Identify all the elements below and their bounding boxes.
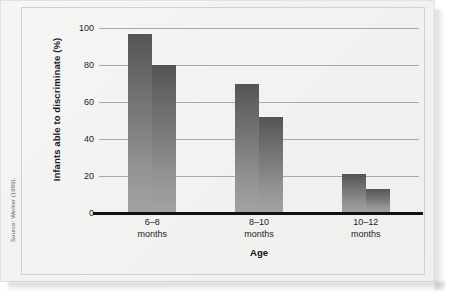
x-category-label: 6–8months	[99, 217, 206, 240]
plot-area: 020406080100	[99, 28, 419, 213]
x-axis-title: Age	[99, 247, 419, 258]
gridline	[99, 28, 419, 29]
x-category-range: 10–12	[312, 217, 419, 229]
figure-shadow-right	[435, 9, 444, 290]
y-tick-label: 60	[84, 97, 94, 107]
figure-shadow-bottom	[8, 282, 445, 291]
bar-chart: Infants able to discriminate (%) 0204060…	[1, 1, 436, 283]
x-category-label: 10–12months	[312, 217, 419, 240]
bar	[342, 174, 366, 213]
bar	[366, 189, 390, 213]
y-tick-label: 80	[84, 60, 94, 70]
x-category-range: 6–8	[99, 217, 206, 229]
x-axis-line	[93, 212, 423, 215]
x-category-unit: months	[312, 229, 419, 241]
x-category-label: 8–10months	[206, 217, 313, 240]
x-category-unit: months	[206, 229, 313, 241]
bar	[259, 117, 283, 213]
x-category-unit: months	[99, 229, 206, 241]
y-tick-label: 40	[84, 134, 94, 144]
y-axis-title: Infants able to discriminate (%)	[51, 15, 62, 205]
x-category-range: 8–10	[206, 217, 313, 229]
bar	[152, 65, 176, 213]
y-tick-label: 100	[79, 23, 94, 33]
y-tick-label: 20	[84, 171, 94, 181]
bar	[235, 84, 259, 214]
figure-plate: Source: Werker (1989). Infants able to d…	[0, 0, 435, 282]
bar	[128, 34, 152, 213]
